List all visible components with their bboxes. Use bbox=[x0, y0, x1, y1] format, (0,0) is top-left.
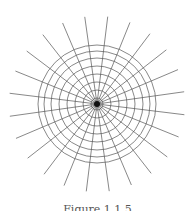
grid-spoke bbox=[99, 105, 168, 157]
grid-spoke bbox=[10, 93, 95, 103]
polar-grid-figure bbox=[0, 0, 195, 211]
grid-spoke bbox=[97, 17, 107, 102]
grid-spoke bbox=[99, 104, 184, 114]
center-hub bbox=[94, 101, 100, 107]
grid-spoke bbox=[44, 106, 96, 175]
figure-caption: Figure 1.1.5 bbox=[0, 203, 195, 211]
grid-spoke bbox=[86, 106, 96, 191]
grid-spoke bbox=[98, 34, 150, 103]
grid-spoke bbox=[27, 51, 96, 103]
